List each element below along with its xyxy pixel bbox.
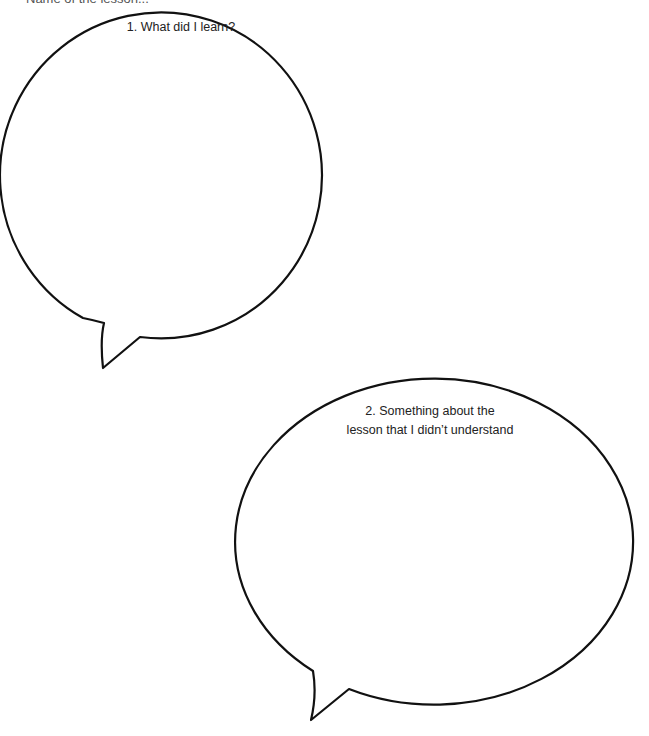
question-1-text: 1. What did I learn? — [127, 20, 235, 34]
speech-bubble-1[interactable] — [0, 12, 322, 368]
question-2-line-1: 2. Something about the — [290, 402, 570, 421]
question-2-line-2: lesson that I didn’t understand — [290, 421, 570, 440]
question-1-label: 1. What did I learn? — [100, 18, 262, 37]
speech-bubbles — [0, 0, 649, 736]
question-2-label: 2. Something about the lesson that I did… — [290, 402, 570, 440]
